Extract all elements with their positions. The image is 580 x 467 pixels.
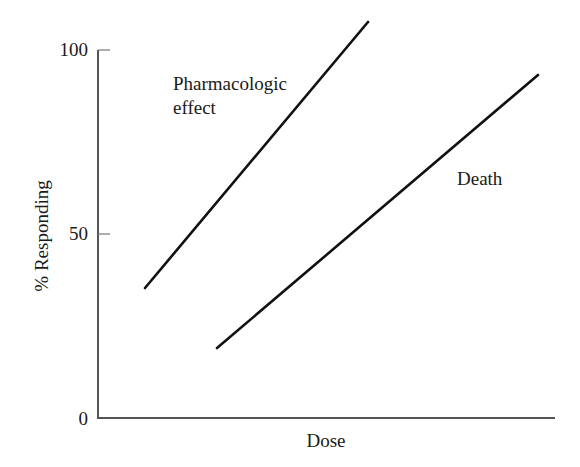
- x-axis-label: Dose: [306, 430, 345, 451]
- dose-response-chart: 100 50 0 % Responding Dose Pharmacologic…: [0, 0, 580, 467]
- series-line-death: [217, 75, 538, 348]
- y-tick-label-0: 0: [79, 408, 89, 429]
- y-axis-label: % Responding: [31, 180, 52, 292]
- y-tick-label-50: 50: [69, 223, 88, 244]
- series-label-pharmacologic-line2: effect: [173, 97, 217, 118]
- series-label-pharmacologic-line1: Pharmacologic: [173, 73, 287, 94]
- series-label-death: Death: [457, 168, 503, 189]
- y-tick-label-100: 100: [60, 39, 89, 60]
